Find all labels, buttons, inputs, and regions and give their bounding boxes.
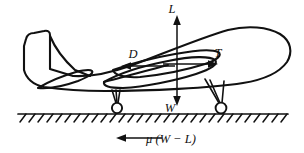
main-wheel	[216, 103, 227, 114]
lift-arrowhead	[173, 15, 181, 25]
thrust-label: T	[215, 46, 223, 60]
nose-landing-gear	[112, 90, 122, 113]
nose-strut-mid	[116, 90, 117, 103]
weight-label: W	[165, 101, 177, 115]
friction-expression-label: μ (W − L)	[145, 132, 196, 146]
ground-hatching	[20, 114, 287, 122]
runway-surface	[18, 114, 288, 122]
airplane-silhouette	[24, 27, 290, 91]
friction-arrowhead	[116, 134, 126, 141]
drag-label: D	[127, 47, 137, 61]
force-diagram-figure: L D T W μ (W − L)	[0, 0, 304, 153]
nose-wheel	[112, 103, 122, 113]
lift-label: L	[168, 2, 176, 16]
diagram-canvas: L D T W μ (W − L)	[0, 0, 304, 153]
